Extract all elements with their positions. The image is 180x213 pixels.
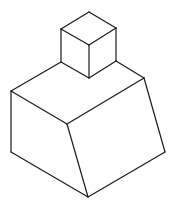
small-cube <box>61 12 116 78</box>
small-cube-edge-7 <box>61 62 89 78</box>
large-block-edge-2 <box>11 91 67 124</box>
small-cube-edge-1 <box>89 12 116 28</box>
large-block-edge-3 <box>67 78 144 124</box>
large-block-edge-8 <box>88 152 165 197</box>
large-block-edge-1 <box>116 61 144 78</box>
small-cube-edge-2 <box>61 29 89 45</box>
isometric-block-diagram <box>0 0 180 213</box>
large-block-edge-0 <box>11 62 61 91</box>
small-cube-edge-0 <box>61 12 89 29</box>
small-cube-edge-3 <box>89 28 116 45</box>
large-block-edge-6 <box>144 78 165 152</box>
small-cube-edge-8 <box>89 61 116 78</box>
large-block <box>11 61 165 197</box>
